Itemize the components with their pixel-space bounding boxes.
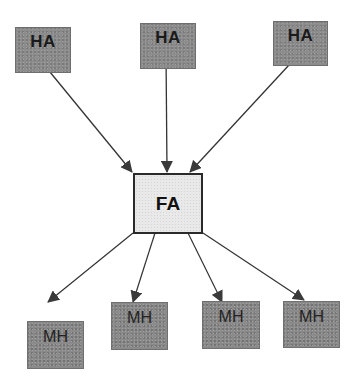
ha-node-2-label: HA xyxy=(155,28,181,48)
ha-node-1: HA xyxy=(15,27,71,73)
mh-node-4: MH xyxy=(283,301,340,348)
edge-fa-mh2 xyxy=(133,233,155,302)
mh-node-1-label: MH xyxy=(43,328,68,346)
ha-node-3: HA xyxy=(273,21,328,66)
mh-node-3: MH xyxy=(202,301,260,349)
edge-fa-mh4 xyxy=(203,233,304,300)
edge-fa-mh1 xyxy=(48,233,133,302)
mh-node-2-label: MH xyxy=(127,309,152,327)
edge-fa-mh3 xyxy=(188,233,222,302)
edge-ha2-fa xyxy=(166,52,167,172)
ha-node-1-label: HA xyxy=(30,32,56,52)
mh-node-3-label: MH xyxy=(219,308,244,326)
mh-node-4-label: MH xyxy=(299,308,324,326)
fa-node: FA xyxy=(133,173,203,234)
ha-node-2: HA xyxy=(140,23,196,69)
mh-node-2: MH xyxy=(111,302,168,350)
edge-ha3-fa xyxy=(190,65,289,172)
fa-node-label: FA xyxy=(156,193,180,215)
ha-node-3-label: HA xyxy=(288,26,314,46)
mh-node-1: MH xyxy=(27,321,84,369)
